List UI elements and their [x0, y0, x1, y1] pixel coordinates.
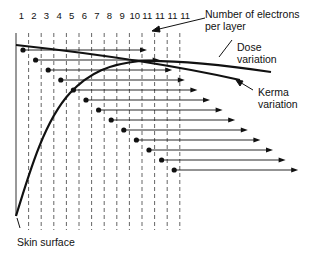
column-label: 4	[56, 10, 61, 21]
dose-label: Dose variation	[237, 41, 277, 65]
skin-surface-label: Skin surface	[17, 236, 75, 248]
electrons-label-line1: Number of electrons	[205, 8, 300, 20]
column-label: 11	[142, 10, 152, 21]
track-arrowhead-icon	[279, 158, 286, 163]
column-label: 2	[31, 10, 36, 21]
electron-origin-dot	[159, 157, 164, 162]
electron-tracks	[20, 47, 298, 172]
column-label: 11	[180, 10, 190, 21]
column-label: 10	[129, 10, 140, 21]
layer-grid	[16, 33, 180, 230]
electron-origin-dot	[172, 167, 177, 172]
track-arrowhead-icon	[228, 118, 235, 123]
electrons-label: Number of electrons per layer	[205, 8, 300, 32]
track-arrowhead-icon	[266, 148, 273, 153]
diagram-canvas	[0, 0, 313, 264]
track-arrowhead-icon	[241, 128, 248, 133]
track-arrowhead-icon	[178, 78, 185, 83]
track-arrowhead-icon	[203, 98, 210, 103]
electron-origin-dot	[46, 67, 51, 72]
track-arrowhead-icon	[190, 88, 197, 93]
dose-pointer	[219, 40, 232, 57]
dose-label-line1: Dose	[237, 41, 277, 53]
electron-origin-dot	[109, 117, 114, 122]
electrons-label-line2: per layer	[205, 20, 300, 32]
kerma-label-line2: variation	[258, 98, 298, 110]
column-label: 1	[19, 10, 24, 21]
dose-label-line2: variation	[237, 53, 277, 65]
column-label: 3	[44, 10, 49, 21]
column-label: 5	[69, 10, 74, 21]
electron-origin-dot	[96, 107, 101, 112]
column-label: 9	[119, 10, 124, 21]
kerma-arrowhead	[236, 80, 243, 86]
skin-pointer	[17, 218, 20, 228]
track-arrowhead-icon	[291, 168, 298, 173]
electron-origin-dot	[134, 137, 139, 142]
track-arrowhead-icon	[165, 68, 172, 73]
electron-origin-dot	[58, 77, 63, 82]
track-arrowhead-icon	[253, 138, 260, 143]
track-arrowhead-icon	[216, 108, 223, 113]
kerma-label-line1: Kerma	[258, 86, 298, 98]
column-label: 8	[107, 10, 112, 21]
electrons-arrowhead	[152, 26, 160, 32]
electron-origin-dot	[146, 147, 151, 152]
electron-origin-dot	[20, 47, 25, 52]
column-label: 7	[94, 10, 99, 21]
electron-origin-dot	[83, 97, 88, 102]
column-label: 6	[82, 10, 87, 21]
column-label: 11	[168, 10, 178, 21]
column-label: 11	[155, 10, 165, 21]
track-arrowhead-icon	[140, 48, 147, 53]
electron-origin-dot	[121, 127, 126, 132]
kerma-label: Kerma variation	[258, 86, 298, 110]
electron-origin-dot	[33, 57, 38, 62]
